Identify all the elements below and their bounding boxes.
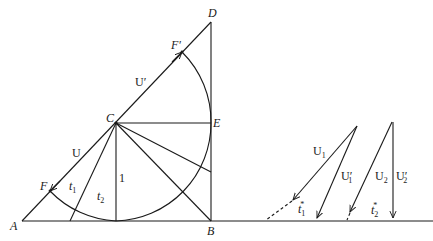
label-U2-main: U	[375, 169, 384, 183]
vector-U1	[293, 126, 357, 200]
label-E: E	[212, 116, 221, 130]
label-F: F	[39, 179, 48, 193]
label-U1-main: U	[313, 144, 322, 158]
vector-U2	[350, 122, 392, 212]
label-t2-sub: 2	[100, 196, 104, 205]
label-t2-star-sup: *	[373, 201, 377, 210]
arrow-U	[50, 181, 60, 191]
label-U2-sub: 2	[384, 176, 388, 185]
label-t2-star: t2*	[371, 201, 378, 219]
label-U1-prime: U′1	[341, 169, 353, 185]
geometric-diagram: A B C D E F F′ U U′ 1 t1 t2 U1 U′1 t1*	[0, 0, 433, 241]
point-F-prime-dot	[181, 51, 184, 54]
label-t1-star-sub: 1	[301, 209, 305, 218]
point-F-dot	[49, 190, 52, 193]
segment-C-to-right	[116, 123, 211, 172]
label-D: D	[207, 6, 217, 20]
velocity-diagrams: U1 U′1 t1* U2 U′2 t2*	[266, 122, 408, 220]
label-B: B	[207, 224, 215, 238]
label-t1: t1	[69, 179, 76, 195]
segment-C-to-B	[116, 123, 211, 221]
label-U1-prime-sub: 1	[348, 176, 352, 185]
label-A: A	[9, 219, 18, 233]
label-U-prime: U′	[135, 75, 147, 89]
arrow-U-prime	[172, 52, 182, 62]
label-C: C	[106, 111, 115, 125]
label-t1-star-sup: *	[300, 200, 304, 209]
label-t2: t2	[97, 189, 104, 205]
label-t1-star: t1*	[298, 200, 305, 218]
construction-figure: A B C D E F F′ U U′ 1 t1 t2	[9, 6, 433, 238]
label-U: U	[72, 146, 81, 160]
vector-U1-extension	[266, 201, 292, 220]
label-U2-prime: U′2	[396, 169, 408, 185]
vector-U2-extension	[347, 213, 350, 220]
label-t2-star-sub: 2	[374, 210, 378, 219]
label-U2: U2	[375, 169, 388, 185]
segment-t1-line	[70, 123, 116, 221]
label-unit: 1	[119, 171, 125, 185]
point-C-dot	[114, 121, 117, 124]
label-U2-prime-sub: 2	[403, 176, 407, 185]
label-U1: U1	[313, 144, 326, 160]
label-U1-sub: 1	[322, 151, 326, 160]
label-F-prime: F′	[170, 38, 181, 52]
label-t1-sub: 1	[72, 186, 76, 195]
